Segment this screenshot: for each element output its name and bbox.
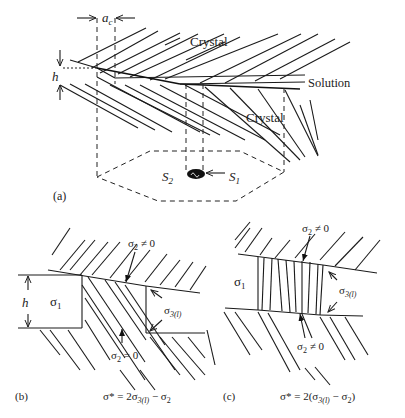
b-sigma2-eq-label: σ2 = 0 (111, 349, 139, 364)
b-sigma1-label: σ1 (50, 294, 62, 311)
panel-b-tag: (b) (15, 390, 28, 403)
panel-a: ac h Crystal Solution Crystal S2 S1 (a) (52, 10, 351, 203)
b-h-label: h (22, 295, 29, 310)
panel-c-inner-hatch (258, 257, 323, 315)
panel-a-tag: (a) (53, 189, 66, 203)
solution-label: Solution (308, 76, 351, 90)
panel-b-middle-hatch (82, 277, 175, 380)
panel-b: h σ1 σ2 ≠ 0 σ3(l) σ2 = 0 (b) σ* = 2σ3(l)… (15, 228, 206, 405)
panel-c-tag: (c) (223, 390, 236, 403)
panel-c-formula: σ* = 2(σ3(l) − σ2) (280, 390, 355, 405)
panel-c: σ1 σ2 ≠ 0 σ3(l) σ2 ≠ 0 (c) σ* = 2(σ3(l) … (207, 222, 380, 405)
crystal-growth-diagram: ac h Crystal Solution Crystal S2 S1 (a) (0, 0, 405, 418)
c-sigma3-label: σ3(l) (339, 284, 357, 299)
seed-icon (187, 169, 205, 179)
s1-label: S1 (229, 169, 240, 186)
b-sigma3-label: σ3(l) (164, 304, 182, 319)
ac-label: ac (102, 10, 113, 27)
panel-c-bottom-hatch (207, 312, 368, 385)
c-sigma2-bottom-label: σ2 ≠ 0 (297, 340, 324, 355)
h-label: h (52, 69, 59, 84)
s2-label: S2 (162, 169, 174, 186)
crystal-top-label: Crystal (190, 34, 228, 49)
panel-b-formula: σ* = 2σ3(l) − σ2 (103, 390, 171, 405)
c-sigma1-label: σ1 (234, 274, 246, 291)
crystal-bottom-label: Crystal (246, 110, 284, 125)
c-sigma2-top-label: σ2 ≠ 0 (302, 222, 329, 237)
